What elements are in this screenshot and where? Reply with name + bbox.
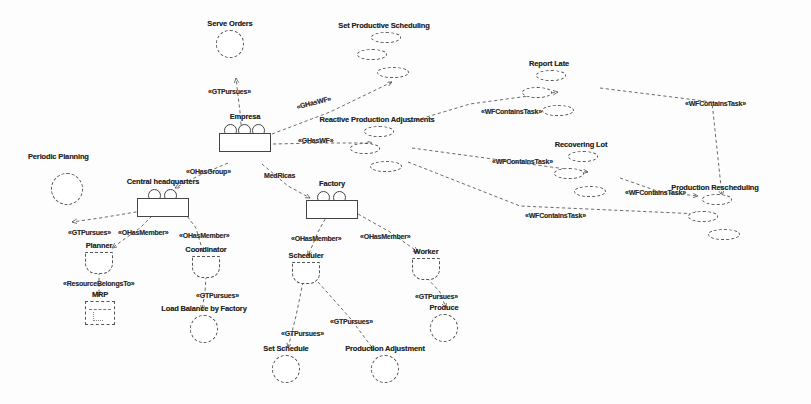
node-label-reactive-production-adjustments: Reactive Production Adjustments (316, 116, 438, 124)
edge-label-gtpursues-periodic: «GTPursues» (68, 229, 111, 236)
workflow-icon-recovering-lot (552, 151, 610, 199)
node-periodic-planning[interactable]: Periodic Planning (24, 153, 110, 205)
edge-label-ghaswf-reactive: «GHasWF» (298, 137, 333, 144)
role-icon-coordinator (192, 256, 220, 278)
node-scheduler[interactable]: Scheduler (276, 252, 336, 284)
node-label-load-balance-by-factory: Load Balance by Factory (148, 305, 260, 313)
edge-label-gtpursues-loadbalance: «GTPursues» (196, 292, 239, 299)
node-label-worker: Worker (398, 248, 454, 256)
role-icon-scheduler (292, 262, 320, 284)
node-label-set-productive-scheduling: Set Productive Scheduling (330, 22, 438, 30)
node-produce[interactable]: Produce (416, 304, 472, 342)
node-set-schedule[interactable]: Set Schedule (250, 345, 322, 383)
edge-label-wfcontainstask-prodresched: «WFContainsTask» (525, 212, 586, 219)
workflow-icon-reactive-production-adjustments (348, 126, 406, 174)
edge-label-ghaswf-set-scheduling: «GHasWF» (296, 95, 332, 110)
node-label-planner: Planner (70, 242, 128, 250)
edge-label-wfcontainstask-rl-pr: «WFContainsTask» (685, 100, 746, 107)
resource-icon-mrp (85, 301, 115, 325)
edge-label-ohasmember-scheduler: «OHasMember» (291, 235, 342, 242)
node-coordinator[interactable]: Coordinator (174, 246, 238, 278)
workflow-icon-set-productive-scheduling (355, 32, 413, 80)
node-set-productive-scheduling[interactable]: Set Productive Scheduling (330, 22, 438, 80)
node-label-scheduler: Scheduler (276, 252, 336, 260)
organization-icon-central-headquarters (137, 187, 189, 217)
edge-label-medricas-factory: MedRicas (264, 172, 295, 179)
role-icon-planner (85, 252, 113, 274)
node-label-recovering-lot: Recovering Lot (540, 141, 622, 149)
node-label-production-adjustment: Production Adjustment (330, 345, 440, 353)
edge-label-wfcontainstask-recoveringlot: «WFContainsTask» (492, 158, 553, 165)
node-recovering-lot[interactable]: Recovering Lot (540, 141, 622, 199)
node-factory[interactable]: Factory (300, 180, 364, 219)
node-label-central-headquarters: Central headquarters (116, 178, 210, 186)
goal-icon-production-adjustment (371, 355, 399, 383)
edge-label-ohasgroup-central: «OHasGroup» (186, 168, 231, 175)
organization-icon-empresa (219, 122, 271, 152)
edge-label-ohasmember-worker: «OHasMember» (360, 233, 411, 240)
node-label-produce: Produce (416, 304, 472, 312)
organization-icon-factory (306, 189, 358, 219)
node-central-headquarters[interactable]: Central headquarters (116, 178, 210, 217)
diagram-canvas: Serve Orders Set Productive Scheduling R… (0, 0, 811, 404)
edge-label-gtpursues-prodadjust: «GTPursues» (330, 318, 373, 325)
edge-label-gtpursues-setschedule: «GTPursues» (281, 330, 324, 337)
node-load-balance-by-factory[interactable]: Load Balance by Factory (148, 305, 260, 343)
edge-line-gtpursues-prodadjust (318, 282, 374, 350)
edge-label-gtpursues-serve-orders: «GTPursues» (208, 88, 251, 95)
node-label-coordinator: Coordinator (174, 246, 238, 254)
node-label-factory: Factory (300, 180, 364, 188)
node-label-serve-orders: Serve Orders (195, 20, 265, 28)
goal-icon-periodic-planning (51, 173, 83, 205)
edge-label-wfcontainstask-reportlate: «WFContainsTask» (481, 108, 542, 115)
edge-label-ohasmember-coordinator: «OHasMember» (179, 232, 230, 239)
edge-label-resourcebelongsto-mrp: «ResourceBelongsTo» (63, 280, 135, 287)
node-worker[interactable]: Worker (398, 248, 454, 280)
edge-label-wfcontainstask-rc-pr: «WFContainsTask» (625, 189, 686, 196)
goal-icon-set-schedule (272, 355, 300, 383)
edge-label-ohasmember-planner: «OHasMember» (118, 229, 169, 236)
node-label-report-late: Report Late (512, 60, 586, 68)
node-label-periodic-planning: Periodic Planning (24, 153, 110, 161)
node-label-mrp: MRP (72, 291, 128, 299)
node-label-empresa: Empresa (206, 113, 284, 121)
workflow-icon-production-rescheduling (686, 194, 744, 242)
goal-icon-serve-orders (216, 30, 244, 58)
edge-label-gtpursues-produce: «GTPursues» (415, 293, 458, 300)
edge-line-gtpursues-setschedule (288, 282, 303, 348)
node-empresa[interactable]: Empresa (206, 113, 284, 152)
node-planner[interactable]: Planner (70, 242, 128, 274)
node-serve-orders[interactable]: Serve Orders (195, 20, 265, 58)
node-label-set-schedule: Set Schedule (250, 345, 322, 353)
node-production-adjustment[interactable]: Production Adjustment (330, 345, 440, 383)
goal-icon-load-balance-by-factory (190, 315, 218, 343)
role-icon-worker (412, 258, 440, 280)
node-reactive-production-adjustments[interactable]: Reactive Production Adjustments (316, 116, 438, 174)
node-mrp[interactable]: MRP (72, 291, 128, 325)
goal-icon-produce (430, 314, 458, 342)
